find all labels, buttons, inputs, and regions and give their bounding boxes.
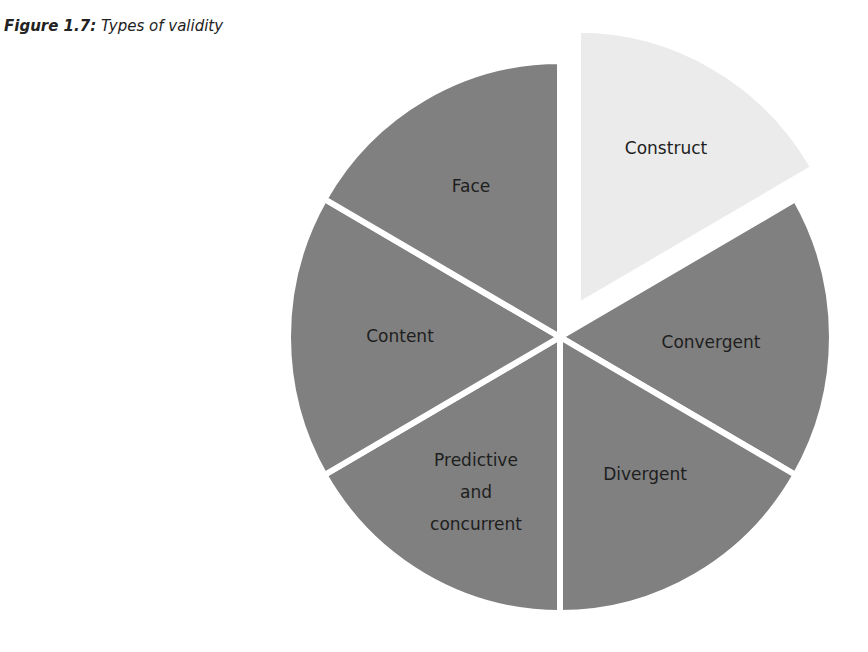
label-predictive-line1: Predictive — [434, 450, 518, 470]
label-content: Content — [366, 326, 434, 346]
label-predictive-line2: and — [460, 482, 492, 502]
label-face: Face — [452, 176, 490, 196]
label-divergent: Divergent — [603, 464, 687, 484]
label-convergent: Convergent — [662, 332, 761, 352]
pie-slices — [288, 30, 832, 613]
label-construct: Construct — [625, 138, 708, 158]
label-predictive-line3: concurrent — [430, 514, 522, 534]
pie-chart: Construct Convergent Divergent Predictiv… — [0, 0, 868, 652]
